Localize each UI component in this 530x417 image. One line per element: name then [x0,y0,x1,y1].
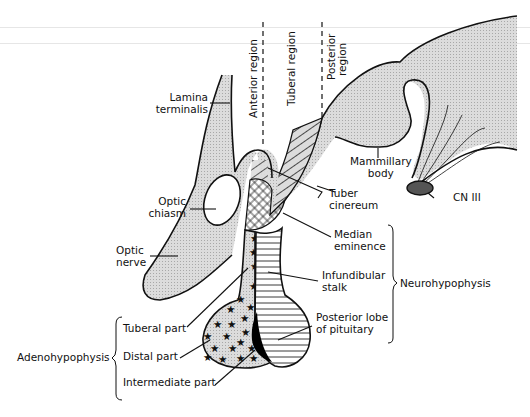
svg-text:★: ★ [222,330,231,342]
region-label-posterior: Posterior region [326,34,348,80]
label-tuberal-part: Tuberal part [123,322,186,334]
svg-text:★: ★ [240,312,249,324]
region-label-anterior: Anterior region [247,39,259,118]
svg-text:★: ★ [226,303,235,315]
label-neurohypophysis: Neurohypophysis [400,277,491,289]
neurohypophysis-brace [388,225,397,343]
label-tuber-cinereum: Tuber cinereum [329,187,378,211]
svg-text:★: ★ [218,353,227,365]
label-infundibular-stalk: Infundibular stalk [322,269,385,293]
label-intermediate-part: Intermediate part [123,376,216,388]
label-posterior-lobe: Posterior lobe of pituitary [316,311,388,335]
label-lamina-terminalis: Lamina terminalis [150,91,208,115]
svg-text:★: ★ [203,330,212,342]
label-optic-nerve: Optic nerve [116,244,146,268]
adenohypophysis-brace [112,317,122,400]
label-median-eminence: Median eminence [334,228,386,252]
label-adenohypophysis: Adenohypophysis [17,351,110,363]
svg-text:★: ★ [203,351,212,363]
label-optic-chiasm: Optic chiasm [146,195,186,219]
cn-iii-stump [407,181,433,195]
label-mammillary-body: Mammillary body [350,155,412,179]
svg-text:★: ★ [236,293,245,305]
svg-text:★: ★ [227,318,236,330]
label-cn-iii: CN III [453,191,481,203]
region-label-tuberal: Tuberal region [285,31,297,106]
label-distal-part: Distal part [123,350,178,362]
neurohypophysis-shape [255,228,310,367]
svg-text:★: ★ [213,318,222,330]
hypothalamus-pituitary-diagram: ★ ★ ★ ★ ★ ★ ★ ★ ★ ★ ★ ★ ★ ★ ★ ★ ★ ★ ★ ★ … [0,0,530,417]
